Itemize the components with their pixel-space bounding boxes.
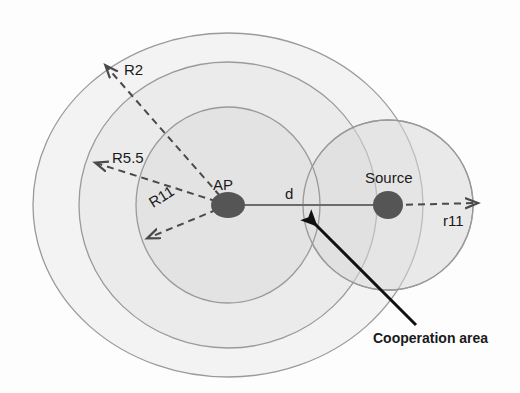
source-node[interactable] — [373, 191, 403, 219]
radius-label-r2: R2 — [124, 62, 143, 77]
radius-label-r11-small: r11 — [443, 213, 464, 228]
radius-label-r55: R5.5 — [112, 150, 144, 165]
cooperation-area-label: Cooperation area — [373, 331, 488, 345]
ap-node-label: AP — [213, 177, 233, 192]
coverage-diagram: R2 R5.5 R11 AP d Source r11 Cooperation … — [0, 0, 520, 393]
ap-node[interactable] — [211, 192, 245, 218]
distance-label-d: d — [285, 186, 293, 201]
source-node-label: Source — [365, 170, 413, 185]
